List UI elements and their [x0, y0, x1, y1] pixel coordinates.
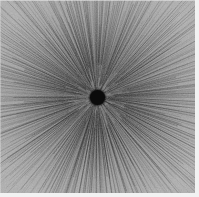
left-margin — [0, 0, 1, 197]
plot-area — [0, 0, 195, 193]
right-margin — [195, 0, 199, 197]
center-disc — [90, 90, 105, 105]
bottom-margin — [0, 193, 199, 197]
radial-burst-figure — [0, 0, 199, 197]
top-margin — [0, 0, 199, 1]
